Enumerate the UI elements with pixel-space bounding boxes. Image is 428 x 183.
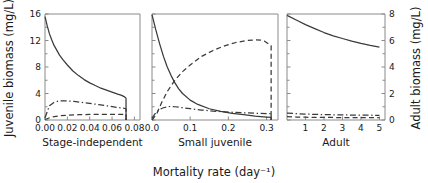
x-tick-label: 0.00: [35, 123, 55, 133]
x-tick-label: 4: [358, 123, 364, 133]
x-tick-label: 3: [340, 123, 346, 133]
series-curve-solid: [287, 15, 379, 47]
panel-3: 0246812345Adult: [287, 9, 395, 148]
x-tick-label: 1: [303, 123, 309, 133]
x-tick-label: 0.1: [183, 123, 197, 133]
multi-panel-line-chart: Juvenile biomass (mg/L) Adult biomass (m…: [0, 0, 428, 183]
x-tick-label: 0.2: [221, 123, 235, 133]
x-tick-label: 5: [377, 123, 383, 133]
panel-frame: [287, 14, 385, 120]
series-curve-solid: [45, 17, 126, 120]
series-curve-dashed: [152, 40, 271, 120]
series-curve-dashed: [287, 117, 379, 118]
y-axis-title-left: Juvenile biomass (mg/L): [2, 0, 16, 138]
panel-label: Adult: [322, 136, 349, 148]
y-tick-label-right: 6: [389, 36, 395, 46]
series-curve-dashed: [45, 114, 126, 120]
series-curve-dash-dot: [152, 106, 271, 120]
x-tick-label: 2: [321, 123, 327, 133]
x-tick-label: 0.02: [57, 123, 77, 133]
panel-2: 0.00.10.20.3Small juvenile: [145, 14, 278, 148]
figure-container: Juvenile biomass (mg/L) Adult biomass (m…: [0, 0, 428, 183]
y-tick-label-right: 2: [389, 89, 395, 99]
y-tick-label-left: 4: [35, 89, 41, 99]
x-tick-label: 0.3: [259, 123, 273, 133]
panel-frame: [152, 14, 278, 120]
y-tick-label-right: 4: [389, 62, 395, 72]
series-curve-dash-dot: [287, 113, 379, 115]
x-tick-label: 0.04: [80, 123, 100, 133]
y-tick-label-left: 16: [30, 9, 42, 19]
series-curve-dash-dot: [45, 101, 126, 120]
series-curve-solid: [152, 15, 271, 120]
y-tick-label-right: 8: [389, 9, 395, 19]
x-tick-label: 0.06: [102, 123, 122, 133]
panel-label: Small juvenile: [178, 136, 252, 148]
x-axis-title: Mortality rate (day⁻¹): [153, 165, 275, 179]
x-tick-label: 0.08: [124, 123, 144, 133]
y-tick-label-left: 8: [35, 62, 41, 72]
panels-layer: 04812160.000.020.040.060.08Stage-indepen…: [30, 9, 395, 148]
panel-label: Stage-independent: [42, 136, 143, 148]
panel-1: 04812160.000.020.040.060.08Stage-indepen…: [30, 9, 145, 148]
x-tick-label: 0.0: [145, 123, 160, 133]
y-tick-label-right: 0: [389, 115, 395, 125]
y-axis-title-right: Adult biomass (mg/L): [409, 7, 423, 130]
y-tick-label-left: 12: [30, 36, 41, 46]
